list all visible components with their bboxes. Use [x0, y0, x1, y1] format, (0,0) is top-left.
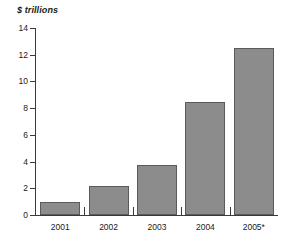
- y-axis-tick: [30, 135, 36, 136]
- y-axis-tick: [30, 28, 36, 29]
- y-axis-tick-label: 14: [0, 23, 28, 33]
- x-axis-tick-label: 2001: [51, 222, 70, 232]
- bar-2002: [89, 186, 129, 215]
- bar-2003: [137, 165, 177, 215]
- y-axis-tick: [30, 81, 36, 82]
- y-axis-tick-label: 10: [0, 76, 28, 86]
- y-axis-tick: [30, 55, 36, 56]
- y-axis-tick: [30, 188, 36, 189]
- x-axis-tick: [230, 207, 231, 215]
- bar-chart-figure: $ trillions 02468101214 2001200220032004…: [0, 0, 282, 246]
- bar-2001: [40, 202, 80, 215]
- bar-2004: [185, 102, 225, 215]
- y-axis-tick-label: 6: [0, 130, 28, 140]
- x-axis-tick-label: 2003: [148, 222, 167, 232]
- x-axis-tick-label: 2004: [196, 222, 215, 232]
- y-axis-tick: [30, 108, 36, 109]
- x-axis-line: [35, 215, 278, 216]
- x-axis-tick: [133, 207, 134, 215]
- y-axis-tick-label: 2: [0, 183, 28, 193]
- y-axis-tick-label: 12: [0, 50, 28, 60]
- y-axis-tick-label: 8: [0, 103, 28, 113]
- x-axis-tick: [181, 207, 182, 215]
- x-axis-tick-label: 2002: [99, 222, 118, 232]
- y-axis-tick-label: 4: [0, 157, 28, 167]
- y-axis-tick-labels: 02468101214: [0, 0, 28, 246]
- x-axis-tick: [84, 207, 85, 215]
- y-axis-tick: [30, 215, 36, 216]
- x-axis-tick-label: 2005*: [243, 222, 265, 232]
- y-axis-tick-label: 0: [0, 210, 28, 220]
- y-axis-tick: [30, 162, 36, 163]
- bar-2005: [234, 48, 274, 215]
